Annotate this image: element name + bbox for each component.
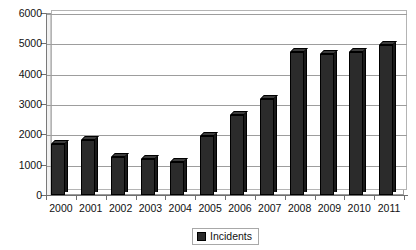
bar-front-face: [141, 159, 155, 195]
y-axis-tick-label: 5000: [0, 38, 42, 48]
x-axis-tick: [285, 195, 286, 200]
chart-legend: Incidents: [192, 228, 259, 245]
x-axis-tick: [136, 195, 137, 200]
bar-incidents-2009: [320, 54, 337, 195]
bar-front-face: [230, 115, 244, 195]
x-axis-tick: [106, 195, 107, 200]
bar-incidents-2010: [349, 52, 366, 195]
x-axis-tick: [195, 195, 196, 200]
bar-top-face: [141, 155, 159, 159]
bar-incidents-2011: [379, 45, 396, 195]
bar-chart: 0100020003000400050006000 20002001200220…: [0, 0, 416, 250]
x-axis-tick: [76, 195, 77, 200]
x-axis-line: [46, 195, 408, 196]
x-axis-tick-label: 2011: [371, 203, 407, 214]
bar-front-face: [349, 52, 363, 195]
bar-series-incidents: [46, 13, 404, 195]
bar-front-face: [170, 162, 184, 195]
bar-incidents-2001: [81, 140, 98, 195]
x-axis-tick: [344, 195, 345, 200]
bar-incidents-2008: [290, 52, 307, 195]
x-axis-tick: [46, 195, 47, 200]
bar-incidents-2002: [111, 157, 128, 195]
bar-front-face: [379, 45, 393, 195]
x-axis-tick: [165, 195, 166, 200]
bar-incidents-2007: [260, 99, 277, 195]
bar-incidents-2003: [141, 159, 158, 195]
y-axis-tick-label: 6000: [0, 8, 42, 18]
y-axis-tick-label: 2000: [0, 129, 42, 139]
x-axis-tick: [404, 195, 405, 200]
y-axis-tick-label: 1000: [0, 160, 42, 170]
bar-front-face: [81, 140, 95, 195]
bar-incidents-2000: [51, 144, 68, 195]
bar-front-face: [260, 99, 274, 195]
bar-incidents-2004: [170, 162, 187, 195]
bar-incidents-2005: [200, 136, 217, 195]
x-axis-tick: [374, 195, 375, 200]
bar-front-face: [290, 52, 304, 195]
legend-label-incidents: Incidents: [210, 231, 252, 242]
bar-front-face: [320, 54, 334, 195]
x-axis-tick: [255, 195, 256, 200]
x-axis-tick: [315, 195, 316, 200]
y-axis-tick-label: 3000: [0, 99, 42, 109]
y-axis-tick-label: 4000: [0, 69, 42, 79]
y-axis-tick-label: 0: [0, 190, 42, 200]
bar-front-face: [200, 136, 214, 195]
incidents-color-swatch: [197, 232, 206, 241]
bar-incidents-2006: [230, 115, 247, 195]
bar-front-face: [51, 144, 65, 195]
x-axis-tick: [225, 195, 226, 200]
bar-front-face: [111, 157, 125, 195]
